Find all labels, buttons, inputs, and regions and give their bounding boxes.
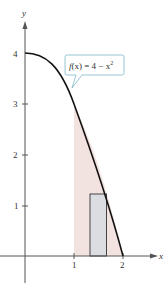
tick-label-y2: 2 bbox=[13, 150, 18, 160]
tick-label-y1: 1 bbox=[14, 201, 19, 211]
x-axis-label: x bbox=[158, 251, 163, 261]
function-callout bbox=[65, 55, 124, 88]
approximating-rectangle bbox=[90, 194, 107, 256]
y-axis-label: y bbox=[21, 8, 26, 18]
tick-label-y4: 4 bbox=[13, 49, 18, 59]
tick-label-y3: 3 bbox=[13, 99, 18, 109]
y-axis-arrow-icon bbox=[23, 21, 28, 29]
function-label: f(x) = 4 − x2 bbox=[69, 60, 113, 71]
x-axis-arrow-icon bbox=[150, 254, 158, 259]
tick-label-x2: 2 bbox=[120, 260, 125, 270]
function-plot: 1 2 1 2 3 4 y x f(x) = 4 − x2 bbox=[0, 0, 166, 290]
tick-label-x1: 1 bbox=[72, 260, 77, 270]
